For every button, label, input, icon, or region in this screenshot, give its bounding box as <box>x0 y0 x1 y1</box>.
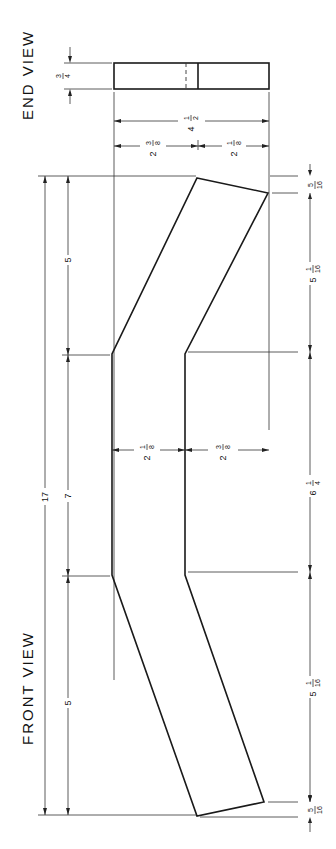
dim-right-top-segment: 5 1 16 <box>305 193 321 352</box>
front-view-outline <box>112 178 268 816</box>
svg-text:5: 5 <box>308 277 318 282</box>
svg-text:16: 16 <box>316 181 323 189</box>
dim-mid-left-width: 2 1 8 <box>112 444 185 461</box>
svg-text:16: 16 <box>314 679 321 687</box>
end-view: END VIEW 3 4 <box>19 30 269 680</box>
svg-text:1: 1 <box>305 267 312 271</box>
svg-text:8: 8 <box>224 445 231 449</box>
svg-text:2: 2 <box>148 151 158 156</box>
svg-text:2: 2 <box>218 455 228 460</box>
dim-right-middle-segment: 6 1 4 <box>305 352 321 572</box>
svg-text:7: 7 <box>63 493 73 498</box>
svg-text:1: 1 <box>305 681 312 685</box>
dim-right-bottom-offset: 5 16 <box>307 796 323 832</box>
svg-text:1: 1 <box>305 481 312 485</box>
dim-segment-middle: 7 <box>63 355 73 576</box>
dim-right-bottom-segment: 5 1 16 <box>305 572 321 802</box>
svg-text:5: 5 <box>308 691 318 696</box>
svg-text:3: 3 <box>145 141 152 145</box>
svg-text:8: 8 <box>235 141 242 145</box>
dim-mid-right-width: 2 3 8 <box>185 444 269 461</box>
svg-text:4: 4 <box>64 74 71 78</box>
svg-text:2: 2 <box>192 116 199 120</box>
svg-text:5: 5 <box>307 808 314 812</box>
svg-text:4: 4 <box>186 126 196 131</box>
svg-text:5: 5 <box>63 257 73 262</box>
svg-text:3: 3 <box>55 74 62 78</box>
technical-drawing: END VIEW 3 4 <box>0 0 336 849</box>
svg-text:4: 4 <box>314 481 321 485</box>
front-view-title: FRONT VIEW <box>19 631 36 745</box>
end-view-outline <box>114 63 269 89</box>
dim-end-left-part: 2 3 8 <box>114 140 198 157</box>
svg-text:5: 5 <box>63 700 73 705</box>
dim-end-thickness: 3 4 <box>55 47 112 104</box>
svg-text:17: 17 <box>40 492 50 502</box>
svg-text:5: 5 <box>307 183 314 187</box>
svg-text:6: 6 <box>308 490 318 495</box>
svg-text:1: 1 <box>226 141 233 145</box>
dim-end-right-part: 2 1 8 <box>198 140 269 157</box>
svg-text:1: 1 <box>139 445 146 449</box>
dim-right-top-offset: 5 16 <box>307 164 323 199</box>
svg-text:1: 1 <box>183 116 190 120</box>
dim-end-total-width: 4 1 2 <box>114 115 269 132</box>
dim-overall-length: 17 <box>40 176 50 815</box>
end-view-title: END VIEW <box>19 30 36 120</box>
svg-text:8: 8 <box>154 141 161 145</box>
dim-segment-top: 5 <box>63 176 73 355</box>
front-view: FRONT VIEW 17 5 <box>19 164 323 832</box>
svg-text:16: 16 <box>314 265 321 273</box>
svg-text:16: 16 <box>316 806 323 814</box>
svg-text:8: 8 <box>148 445 155 449</box>
svg-text:2: 2 <box>229 151 239 156</box>
svg-text:3: 3 <box>215 445 222 449</box>
svg-text:2: 2 <box>142 455 152 460</box>
dim-segment-bottom: 5 <box>63 576 73 815</box>
